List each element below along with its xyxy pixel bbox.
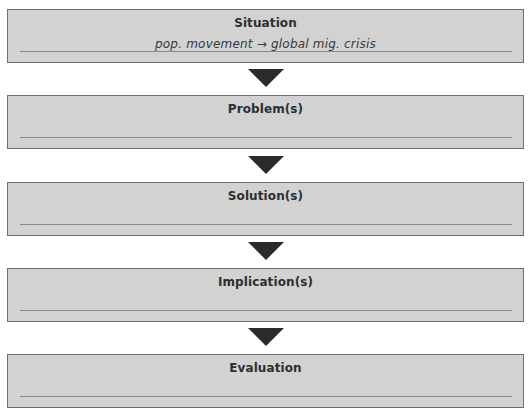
writing-line — [20, 396, 512, 397]
step-box-situation: Situation pop. movement → global mig. cr… — [7, 9, 524, 63]
step-title: Implication(s) — [8, 275, 523, 289]
step-note: pop. movement → global mig. crisis — [8, 37, 523, 51]
step-title: Evaluation — [8, 361, 523, 375]
writing-line — [20, 137, 512, 138]
step-box-implications: Implication(s) — [7, 268, 524, 322]
down-arrow-icon — [248, 242, 284, 260]
step-box-problems: Problem(s) — [7, 95, 524, 149]
down-arrow-icon — [248, 328, 284, 346]
step-box-solutions: Solution(s) — [7, 182, 524, 236]
writing-line — [20, 224, 512, 225]
down-arrow-icon — [248, 156, 284, 174]
step-title: Solution(s) — [8, 189, 523, 203]
step-title: Situation — [8, 16, 523, 30]
down-arrow-icon — [248, 69, 284, 87]
flowchart: Situation pop. movement → global mig. cr… — [0, 0, 531, 411]
writing-line — [20, 310, 512, 311]
writing-line — [20, 51, 512, 52]
step-box-evaluation: Evaluation — [7, 354, 524, 408]
step-title: Problem(s) — [8, 102, 523, 116]
